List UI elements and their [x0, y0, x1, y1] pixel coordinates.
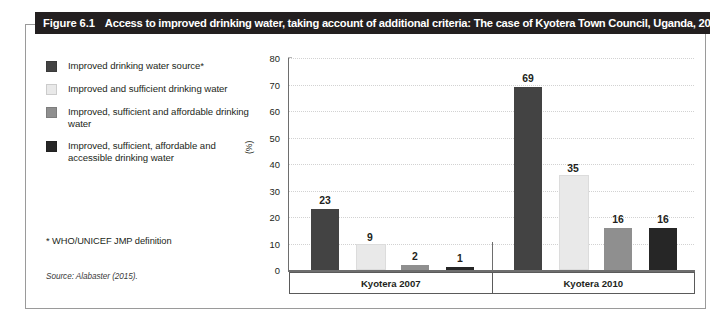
bar-rect: [311, 209, 339, 270]
figure-footnote: * WHO/UNICEF JMP definition: [46, 236, 266, 246]
bar-value-label: 35: [567, 163, 579, 174]
legend-swatch-icon: [46, 84, 57, 95]
legend-item[interactable]: Improved drinking water source*: [46, 60, 256, 72]
bar-rect: [559, 175, 589, 270]
bar-value-label: 2: [412, 251, 418, 262]
bar-value-label: 23: [319, 195, 331, 206]
bar-value-label: 69: [522, 73, 534, 84]
bar-rect: [604, 228, 632, 270]
y-axis-tick-label: 70: [254, 79, 280, 90]
legend-swatch-icon: [46, 107, 57, 118]
y-axis-tick-label: 0: [254, 265, 280, 276]
y-axis-label: (%): [244, 141, 254, 154]
bar-value-label: 16: [657, 214, 669, 225]
legend-item[interactable]: Improved and sufficient drinking water: [46, 83, 256, 95]
legend-swatch-icon: [46, 141, 57, 152]
legend-item-label: Improved drinking water source*: [57, 60, 204, 72]
y-axis-tick-label: 10: [254, 238, 280, 249]
page-title: Access to improved drinking water, takin…: [95, 17, 710, 29]
bar-rect: [356, 244, 386, 270]
bar-chart: (%) 01020304050607080 2392169351616 Kyot…: [246, 50, 698, 302]
category-label-cell: Kyotera 2010: [492, 272, 696, 294]
y-axis-tick-label: 80: [254, 53, 280, 64]
bar-rect: [649, 228, 677, 270]
y-axis-tick-label: 50: [254, 132, 280, 143]
bar-value-label: 1: [457, 253, 463, 264]
bar-series-container: 2392169351616: [289, 58, 694, 270]
figure-root: Figure 6.1 Access to improved drinking w…: [0, 0, 727, 327]
figure-number: Figure 6.1: [35, 17, 95, 29]
category-label-cell: Kyotera 2007: [289, 272, 493, 294]
figure-source: Source: Alabaster (2015).: [46, 272, 266, 281]
bar-value-label: 16: [612, 214, 624, 225]
legend-item[interactable]: Improved, sufficient and affordable drin…: [46, 106, 256, 129]
legend-item[interactable]: Improved, sufficient, affordable and acc…: [46, 140, 256, 163]
y-axis-tick-label: 40: [254, 159, 280, 170]
bar-value-label: 9: [367, 232, 373, 243]
figure-title-bar: Figure 6.1 Access to improved drinking w…: [35, 12, 710, 34]
legend-item-label: Improved, sufficient and affordable drin…: [57, 106, 256, 129]
y-axis-tick-label: 20: [254, 212, 280, 223]
chart-legend: Improved drinking water source*Improved …: [46, 60, 256, 174]
legend-item-label: Improved, sufficient, affordable and acc…: [57, 140, 256, 163]
bar-rect: [514, 87, 542, 270]
legend-swatch-icon: [46, 61, 57, 72]
plot-area: 2392169351616: [289, 58, 694, 270]
y-axis-tick-label: 30: [254, 185, 280, 196]
y-axis-ticks: 01020304050607080: [254, 50, 280, 270]
category-labels: Kyotera 2007Kyotera 2010: [289, 272, 695, 294]
legend-item-label: Improved and sufficient drinking water: [57, 83, 228, 95]
y-axis-tick-label: 60: [254, 106, 280, 117]
